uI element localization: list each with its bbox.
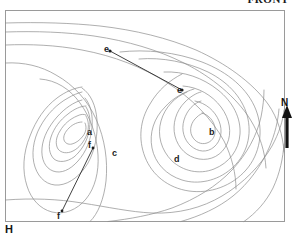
figure-title: FRONT (248, 0, 290, 5)
map-label-e-upper: e (104, 45, 109, 54)
f-top-point (92, 147, 95, 150)
map-label-d: d (174, 155, 180, 164)
corner-label-h: H (5, 224, 13, 235)
map-label-c: c (112, 149, 117, 158)
north-label: N (281, 98, 288, 108)
contour-map-canvas (0, 0, 297, 238)
map-label-f-top: f (88, 141, 91, 150)
map-label-a: a (87, 128, 92, 137)
contour-map-figure: FRONT H N a f c b d e e f (0, 0, 297, 238)
map-label-f-bottom: f (57, 212, 60, 221)
map-label-b: b (209, 128, 215, 137)
f-bottom-point (61, 210, 64, 213)
map-label-e-lower: e (177, 86, 182, 95)
